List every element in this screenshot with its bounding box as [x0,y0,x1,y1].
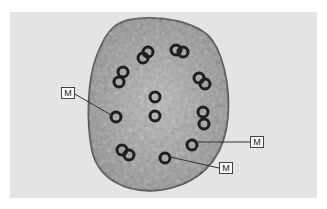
label-m: M [219,162,233,174]
micrograph-image [0,0,327,209]
micrograph: M M M [0,0,327,209]
label-m: M [61,87,75,99]
label-m: M [250,136,264,148]
